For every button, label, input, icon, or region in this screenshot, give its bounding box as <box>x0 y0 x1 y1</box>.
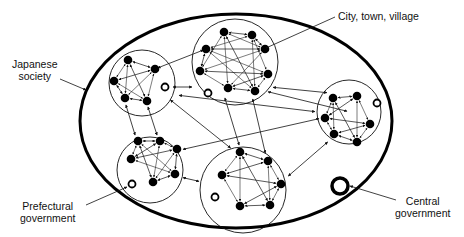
bidirectional-arrow <box>133 146 136 155</box>
bidirectional-arrow <box>225 156 237 171</box>
municipality-node <box>124 56 133 65</box>
cluster-c4 <box>117 137 183 203</box>
bidirectional-arrow <box>117 64 125 77</box>
bidirectional-arrow <box>225 179 238 201</box>
cluster-c1 <box>109 50 175 116</box>
municipality-node <box>353 138 362 147</box>
municipality-node <box>134 137 143 146</box>
bidirectional-arrow <box>255 39 261 46</box>
bidirectional-arrow <box>205 51 261 70</box>
municipality-node <box>261 45 270 54</box>
central-government-ring <box>332 178 348 194</box>
bidirectional-arrow <box>245 154 263 160</box>
bidirectional-arrow <box>244 186 276 203</box>
bidirectional-arrow <box>272 188 278 200</box>
label-prefectural-government: Prefectural government <box>20 200 75 224</box>
bidirectional-arrow <box>327 103 331 114</box>
municipality-node <box>121 94 130 103</box>
municipality-node <box>143 97 152 106</box>
municipality-node <box>366 120 375 129</box>
municipality-node <box>277 180 286 189</box>
municipality-node <box>236 202 245 211</box>
cluster-c5 <box>200 147 286 233</box>
bidirectional-arrow <box>154 146 159 177</box>
municipality-node <box>236 148 245 157</box>
bidirectional-arrow <box>224 37 227 83</box>
bidirectional-arrow <box>229 33 247 35</box>
bidirectional-arrow <box>211 36 247 47</box>
prefecture-circle <box>200 147 286 233</box>
bidirectional-arrow <box>268 166 270 200</box>
bidirectional-arrow <box>330 119 365 124</box>
municipality-node <box>224 84 233 93</box>
bidirectional-arrow <box>133 62 151 68</box>
municipality-node <box>251 87 260 96</box>
bidirectional-arrow <box>204 74 223 86</box>
bidirectional-arrow <box>226 36 252 86</box>
municipality-node <box>264 70 273 79</box>
municipality-node <box>196 67 205 76</box>
label-city-town-village: City, town, village <box>338 10 419 22</box>
bidirectional-arrow <box>270 165 278 179</box>
bidirectional-arrow <box>233 89 250 91</box>
central-government-node <box>332 178 348 194</box>
municipality-node <box>329 94 338 103</box>
bidirectional-arrow <box>333 103 334 129</box>
municipality-node <box>220 28 229 37</box>
leader-japanese-society <box>60 79 86 90</box>
bidirectional-arrow <box>183 119 319 150</box>
prefectural-government-ring <box>129 181 136 188</box>
bidirectional-arrow <box>227 162 263 173</box>
bidirectional-arrow <box>126 105 135 135</box>
bidirectional-arrow <box>148 74 154 96</box>
bidirectional-arrow <box>130 99 142 101</box>
prefecture-circle <box>317 80 381 144</box>
municipality-node <box>110 77 119 86</box>
bidirectional-arrow <box>211 51 264 72</box>
municipality-node <box>202 45 211 54</box>
bidirectional-arrow <box>253 99 266 153</box>
cluster-c3 <box>317 80 381 146</box>
bidirectional-arrow <box>231 53 261 85</box>
leader-prefectural <box>86 187 127 205</box>
municipality-node <box>353 92 362 101</box>
prefectural-government-ring <box>212 194 219 201</box>
leader-central <box>350 186 396 200</box>
municipality-node <box>149 178 158 187</box>
bidirectional-arrow <box>339 125 365 132</box>
bidirectional-arrow <box>359 101 368 120</box>
bidirectional-arrow <box>245 205 265 206</box>
municipality-node <box>264 157 273 166</box>
prefectural-government-ring <box>162 84 169 91</box>
label-japanese-society: Japanese society <box>12 58 58 82</box>
bidirectional-arrow <box>158 176 171 181</box>
municipality-node <box>321 114 330 123</box>
municipality-node <box>171 170 180 179</box>
municipality-node <box>127 155 136 164</box>
bidirectional-arrow <box>136 150 172 158</box>
bidirectional-arrow <box>288 142 327 176</box>
bidirectional-arrow <box>360 128 367 138</box>
bidirectional-arrow <box>183 178 199 182</box>
municipality-node <box>330 130 339 139</box>
bidirectional-arrow <box>142 144 172 170</box>
bidirectional-arrow <box>130 65 145 97</box>
prefectural-government-ring <box>205 90 212 97</box>
municipality-node <box>173 145 182 154</box>
bidirectional-arrow <box>258 78 265 87</box>
bidirectional-arrow <box>327 122 331 129</box>
label-central-government: Central government <box>395 195 450 219</box>
prefectural-government-ring <box>374 100 381 107</box>
municipality-node <box>218 171 227 180</box>
bidirectional-arrow <box>175 154 176 169</box>
bidirectional-arrow <box>338 96 352 97</box>
cluster-c2 <box>192 19 278 105</box>
bidirectional-arrow <box>136 161 171 173</box>
municipality-node <box>248 31 257 40</box>
bidirectional-arrow <box>140 146 152 178</box>
bidirectional-arrow <box>117 85 123 94</box>
bidirectional-arrow <box>339 136 353 141</box>
bidirectional-arrow <box>273 87 327 92</box>
bidirectional-arrow <box>148 107 157 135</box>
municipality-node <box>266 201 275 210</box>
